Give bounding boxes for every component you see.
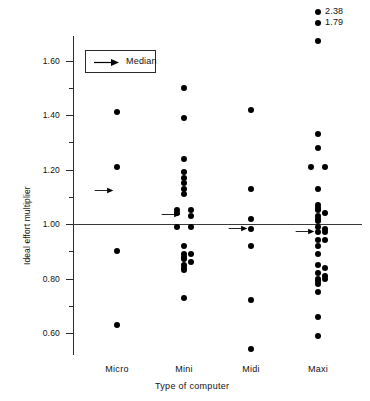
off-scale-label: 1.79	[325, 17, 343, 27]
y-tick-minor	[69, 197, 73, 198]
median-arrow-micro	[92, 187, 116, 194]
data-point	[181, 267, 187, 273]
y-tick-label: 1.40	[30, 110, 60, 120]
data-point	[181, 243, 187, 249]
data-point	[248, 226, 254, 232]
data-point	[248, 107, 254, 113]
y-tick-minor	[69, 88, 73, 89]
data-point	[181, 295, 187, 301]
y-axis-line	[73, 36, 74, 355]
x-tick-label-mini: Mini	[154, 364, 214, 374]
y-tick-label: 1.00	[30, 219, 60, 229]
data-point	[315, 289, 321, 295]
data-point	[322, 210, 328, 216]
data-point	[248, 243, 254, 249]
data-point	[315, 145, 321, 151]
data-point	[248, 216, 254, 222]
data-point	[315, 186, 321, 192]
data-point	[315, 281, 321, 287]
data-point	[322, 229, 328, 235]
data-point	[114, 164, 120, 170]
data-point	[322, 164, 328, 170]
data-point	[248, 346, 254, 352]
data-point	[114, 322, 120, 328]
off-scale-data-point	[315, 9, 321, 15]
y-tick-major	[66, 170, 73, 171]
median-arrow-icon	[94, 58, 120, 67]
y-tick-minor	[69, 306, 73, 307]
data-point	[174, 224, 180, 230]
data-point	[188, 213, 194, 219]
data-point	[181, 191, 187, 197]
data-point	[315, 314, 321, 320]
y-tick-label: 1.20	[30, 165, 60, 175]
chart-canvas: Ideal effort multiplier 1.601.401.201.00…	[0, 0, 370, 401]
y-tick-major	[66, 61, 73, 62]
data-point	[315, 38, 321, 44]
y-tick-label: 0.60	[30, 328, 60, 338]
data-point	[322, 265, 328, 271]
legend-label: Median	[126, 56, 157, 66]
data-point	[308, 164, 314, 170]
data-point	[322, 237, 328, 243]
data-point	[174, 210, 180, 216]
data-point	[248, 186, 254, 192]
median-arrow-maxi	[293, 228, 317, 235]
x-axis-title: Type of computer	[155, 381, 229, 391]
off-scale-label: 2.38	[325, 6, 343, 16]
data-point	[248, 297, 254, 303]
x-tick-label-maxi: Maxi	[288, 364, 348, 374]
data-point	[315, 251, 321, 257]
y-tick-major	[66, 115, 73, 116]
data-point	[114, 109, 120, 115]
off-scale-data-point	[315, 20, 321, 26]
y-tick-major	[66, 224, 73, 225]
y-tick-major	[66, 333, 73, 334]
data-point	[181, 156, 187, 162]
data-point	[315, 262, 321, 268]
y-tick-major	[66, 279, 73, 280]
data-point	[315, 243, 321, 249]
x-tick-label-micro: Micro	[87, 364, 147, 374]
data-point	[188, 224, 194, 230]
data-point	[315, 131, 321, 137]
data-point	[181, 115, 187, 121]
data-point	[188, 251, 194, 257]
y-tick-minor	[69, 142, 73, 143]
x-tick-label-midi: Midi	[221, 364, 281, 374]
y-tick-minor	[69, 251, 73, 252]
data-point	[188, 259, 194, 265]
data-point	[315, 229, 321, 235]
legend-box: Median	[85, 50, 156, 73]
data-point	[315, 333, 321, 339]
data-point	[114, 248, 120, 254]
data-point	[181, 85, 187, 91]
y-tick-label: 0.80	[30, 274, 60, 284]
y-tick-label: 1.60	[30, 56, 60, 66]
data-point	[322, 276, 328, 282]
median-arrow-midi	[226, 225, 250, 232]
